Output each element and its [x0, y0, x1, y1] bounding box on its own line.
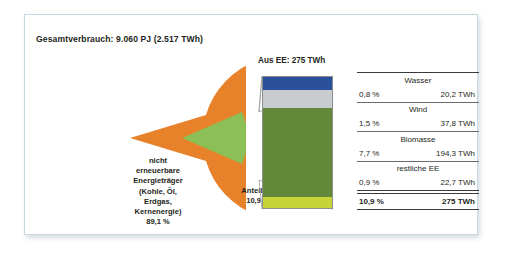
table-cell-percent-total: 10,9 %	[357, 196, 403, 207]
table-row-total: 10,9 % 275 TWh	[357, 194, 479, 209]
pie-label-line-1: nicht	[109, 156, 207, 166]
bar-segment-biomasse	[263, 108, 332, 197]
bar-segment-wasser	[263, 77, 332, 90]
table-cell-percent-biomasse: 7,7 %	[357, 148, 403, 159]
pie-label-non-renewable: nicht erneuerbare Energieträger (Kohle, …	[109, 156, 207, 227]
table-row-category-biomasse: Biomasse	[357, 132, 479, 146]
table-cell-value-wasser: 20,2 TWh	[413, 89, 479, 100]
figure-canvas: Gesamtverbrauch: 9.060 PJ (2.517 TWh) ni…	[0, 0, 507, 266]
table-row-wind: 1,5 % 37,8 TWh	[357, 117, 479, 132]
bar-chart-heading: Aus EE: 275 TWh	[258, 56, 325, 65]
pie-label-line-7: 89,1 %	[109, 217, 207, 227]
pie-chart: nicht erneuerbare Energieträger (Kohle, …	[46, 52, 246, 232]
table-cell-percent-wasser: 0,8 %	[357, 89, 403, 100]
table-row-biomasse: 7,7 % 194,3 TWh	[357, 146, 479, 161]
table-row-category-wind: Wind	[357, 103, 479, 117]
table-cell-value-total: 275 TWh	[413, 196, 479, 207]
table-cell-percent-restliche-ee: 0,9 %	[357, 177, 403, 188]
table-rule-bottom	[357, 209, 479, 210]
figure-title: Gesamtverbrauch: 9.060 PJ (2.517 TWh)	[36, 34, 286, 44]
bar-segment-wind	[263, 90, 332, 108]
table-cell-value-wind: 37,8 TWh	[413, 118, 479, 129]
pie-label-line-4: (Kohle, Öl,	[109, 187, 207, 197]
table-row-restliche-ee: 0,9 % 22,7 TWh	[357, 176, 479, 191]
table-cell-value-biomasse: 194,3 TWh	[413, 148, 479, 159]
table-row-category-restliche-ee: restliche EE	[357, 162, 479, 176]
table-cell-percent-wind: 1,5 %	[357, 118, 403, 129]
pie-label-line-2: erneuerbare	[109, 166, 207, 176]
pie-label-line-6: Kernenergie)	[109, 207, 207, 217]
data-table: Wasser 0,8 % 20,2 TWh Wind 1,5 % 37,8 TW…	[357, 72, 479, 210]
table-row-category-wasser: Wasser	[357, 73, 479, 87]
table-cell-value-restliche-ee: 22,7 TWh	[413, 177, 479, 188]
stacked-bar-chart	[262, 76, 333, 209]
pie-label-line-5: Erdgas,	[109, 197, 207, 207]
bar-segment-restliche-ee	[263, 197, 332, 208]
pie-label-line-3: Energieträger	[109, 176, 207, 186]
table-row-wasser: 0,8 % 20,2 TWh	[357, 87, 479, 102]
